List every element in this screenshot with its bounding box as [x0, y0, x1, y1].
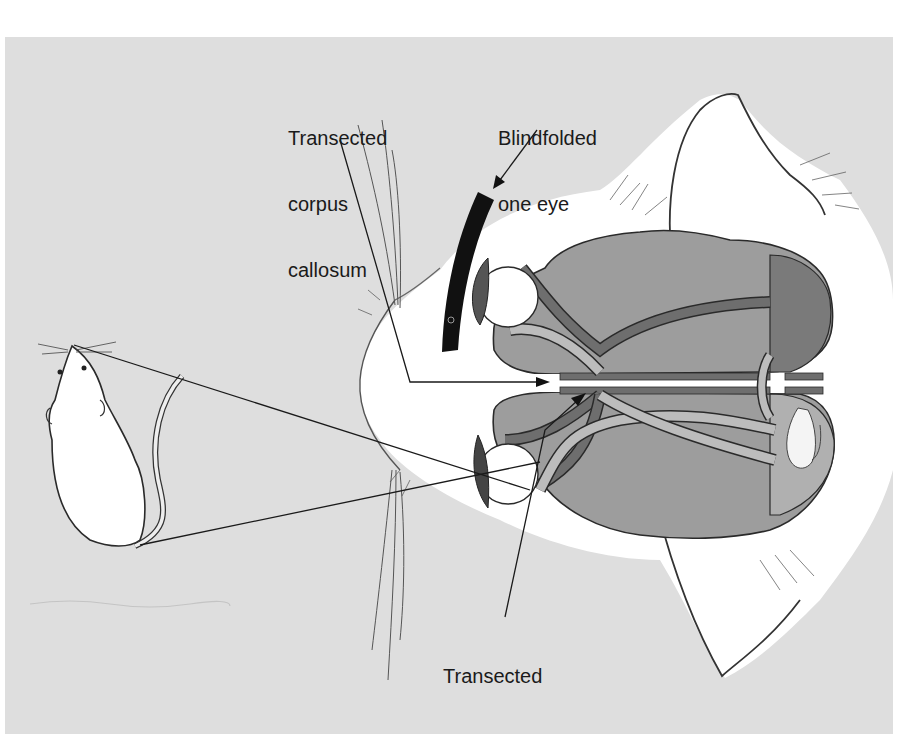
corpus-callosum-lower	[560, 387, 770, 394]
label-line: Transected	[443, 665, 542, 687]
label-transected-optic-chiasm: Transected optic chiasm	[443, 621, 542, 734]
label-line: Transected	[288, 127, 387, 149]
label-line: Blindfolded	[498, 127, 597, 149]
label-line: corpus	[288, 193, 387, 215]
label-transected-corpus-callosum: Transected corpus callosum	[288, 83, 387, 303]
label-blindfolded-one-eye: Blindfolded one eye	[498, 83, 597, 237]
corpus-callosum-upper	[560, 373, 770, 380]
label-line: one eye	[498, 193, 597, 215]
label-line: callosum	[288, 259, 387, 281]
